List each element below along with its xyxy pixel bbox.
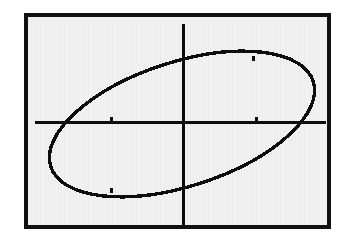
page-root: [0, 0, 352, 252]
plot-canvas: [28, 17, 327, 225]
rotated-ellipse-curve: [32, 22, 327, 225]
graphing-calculator-screen: [24, 13, 331, 229]
